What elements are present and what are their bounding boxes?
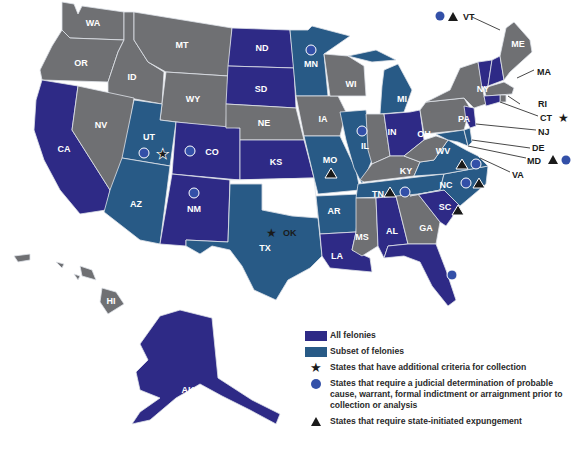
label-la: LA: [331, 251, 343, 261]
legend-label: States that require state-initiated expu…: [330, 416, 522, 427]
label-ga: GA: [419, 223, 433, 233]
label-tx: TX: [259, 243, 271, 253]
state-ct[interactable]: [484, 95, 500, 106]
circle-icon: [471, 159, 481, 169]
triangle-icon: [548, 155, 558, 164]
circle-icon: [400, 187, 410, 197]
label-me: ME: [511, 39, 525, 49]
label-oh: OH: [417, 129, 431, 139]
label-ok: OK: [283, 228, 297, 238]
label-ks: KS: [270, 157, 283, 167]
label-pa: PA: [458, 114, 470, 124]
star-icon: ★: [558, 111, 569, 125]
label-al: AL: [386, 226, 398, 236]
label-hi: HI: [107, 296, 116, 306]
state-fl[interactable]: [384, 244, 456, 306]
label-nj: NJ: [538, 127, 550, 137]
legend-item-triangle: States that require state-initiated expu…: [302, 416, 576, 427]
circle-icon: [447, 270, 457, 280]
triangle-icon: [311, 417, 321, 426]
label-md: MD: [527, 156, 541, 166]
legend-label: Subset of felonies: [330, 346, 404, 357]
triangle-icon: [448, 12, 458, 21]
label-az: AZ: [130, 199, 142, 209]
label-wi: WI: [346, 79, 357, 89]
label-mo: MO: [323, 155, 338, 165]
label-nd: ND: [256, 43, 269, 53]
label-sc: SC: [439, 202, 452, 212]
label-ky: KY: [400, 166, 413, 176]
state-ri[interactable]: [500, 95, 506, 102]
circle-icon: [436, 12, 445, 21]
label-de: DE: [532, 143, 545, 153]
label-wv: WV: [436, 146, 451, 156]
circle-icon: [189, 188, 199, 198]
label-id: ID: [128, 72, 138, 82]
label-ia: IA: [319, 114, 329, 124]
label-or: OR: [74, 58, 88, 68]
label-nh: NH: [512, 71, 525, 81]
label-ut: UT: [143, 132, 155, 142]
label-ri: RI: [538, 99, 547, 109]
label-ma: MA: [537, 67, 551, 77]
label-in: IN: [388, 127, 397, 137]
circle-icon: [139, 148, 149, 158]
star-icon: ★: [310, 363, 322, 373]
label-ar: AR: [328, 206, 341, 216]
label-fl: FL: [455, 285, 466, 295]
circle-icon: [357, 126, 367, 136]
legend-item-all-felonies: All felonies: [302, 330, 576, 341]
circle-icon: [461, 178, 471, 188]
legend-label: States that have additional criteria for…: [330, 362, 526, 373]
star-icon: ★: [266, 226, 277, 240]
label-ak: AK: [182, 385, 195, 395]
legend-item-star: ★ States that have additional criteria f…: [302, 362, 576, 373]
label-ca: CA: [58, 144, 71, 154]
circle-icon: [562, 156, 571, 165]
swatch-subset-felonies: [305, 347, 327, 357]
label-wa: WA: [86, 18, 101, 28]
legend-item-subset-felonies: Subset of felonies: [302, 346, 576, 357]
label-nc: NC: [440, 180, 453, 190]
label-ny: NY: [477, 84, 490, 94]
label-va: VA: [512, 170, 524, 180]
swatch-all-felonies: [305, 331, 327, 341]
label-nv: NV: [95, 120, 108, 130]
circle-icon: [306, 45, 316, 55]
state-ak[interactable]: [132, 310, 280, 424]
label-nm: NM: [187, 204, 201, 214]
label-co: CO: [205, 147, 219, 157]
legend-label: All felonies: [330, 330, 376, 341]
label-ms: MS: [355, 232, 369, 242]
legend: All felonies Subset of felonies ★ States…: [302, 330, 576, 432]
legend-item-circle: States that require a judicial determina…: [302, 378, 576, 411]
label-mi: MI: [397, 94, 407, 104]
legend-label: States that require a judicial determina…: [330, 378, 576, 411]
label-mn: MN: [304, 59, 318, 69]
circle-icon: [185, 146, 195, 156]
state-wi[interactable]: [324, 54, 366, 96]
state-ms[interactable]: [352, 198, 378, 256]
label-tn: TN: [372, 189, 384, 199]
label-sd: SD: [255, 84, 268, 94]
label-il: IL: [361, 141, 370, 151]
label-ct: CT: [540, 113, 552, 123]
circle-icon: [311, 379, 321, 389]
label-vt: VT: [463, 12, 475, 22]
label-mt: MT: [176, 40, 189, 50]
label-wy: WY: [186, 94, 201, 104]
label-ne: NE: [258, 118, 271, 128]
star-icon: ★: [156, 145, 169, 162]
